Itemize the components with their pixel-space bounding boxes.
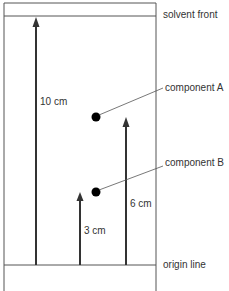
- solvent-distance-label: 10 cm: [40, 97, 67, 107]
- component-b-label: component B: [165, 158, 224, 168]
- component-b-spot: [92, 188, 101, 197]
- component-b-distance-arrow: [77, 192, 84, 265]
- component-a-label: component A: [165, 83, 223, 93]
- origin-line-label: origin line: [163, 260, 206, 270]
- component-b-leader: [99, 166, 163, 190]
- component-a-leader: [99, 88, 163, 115]
- component-a-spot: [92, 113, 101, 122]
- component-a-distance-label: 6 cm: [130, 199, 152, 209]
- solvent-distance-arrow: [33, 17, 40, 265]
- tlc-plate-diagram: [0, 0, 229, 291]
- component-a-distance-arrow: [123, 117, 130, 265]
- component-b-distance-label: 3 cm: [84, 226, 106, 236]
- solvent-front-label: solvent front: [163, 10, 217, 20]
